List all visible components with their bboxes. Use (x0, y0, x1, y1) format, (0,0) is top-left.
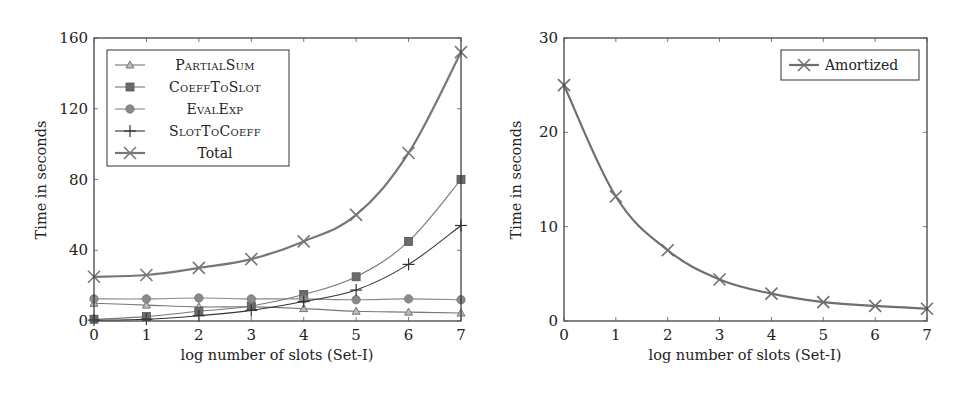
legend-label: CoeffToSlot (169, 79, 261, 95)
y-tick-label: 10 (539, 218, 558, 236)
legend-right: Amortized (781, 50, 919, 80)
x-tick-label: 6 (870, 326, 880, 344)
circle-marker-icon (247, 295, 255, 303)
y-tick-label: 0 (548, 312, 558, 330)
x-tick-label: 2 (663, 326, 673, 344)
circle-marker-icon (404, 295, 412, 303)
plot-area-right (558, 79, 933, 315)
series-amortized (558, 79, 933, 315)
x-marker-icon (662, 244, 674, 256)
x-tick-label: 2 (194, 326, 204, 344)
series-evalexp (90, 294, 465, 304)
chart-left-component-times: 0123456704080120160 log number of slots … (33, 29, 467, 363)
circle-marker-icon (195, 294, 203, 302)
x-marker-icon (403, 147, 415, 159)
legend-label: Total (197, 145, 233, 161)
square-marker-icon (352, 273, 360, 281)
x-tick-label: 7 (456, 326, 466, 344)
y-tick-label: 40 (69, 241, 88, 259)
x-axis-label-left: log number of slots (Set-I) (181, 347, 374, 363)
x-marker-icon (610, 190, 622, 202)
x-tick-label: 3 (715, 326, 725, 344)
circle-marker-icon (352, 296, 360, 304)
x-tick-label: 5 (351, 326, 361, 344)
circle-marker-icon (126, 105, 134, 113)
y-tick-label: 160 (59, 29, 88, 47)
square-marker-icon (126, 83, 134, 91)
x-tick-label: 0 (559, 326, 569, 344)
square-marker-icon (405, 237, 413, 245)
x-tick-label: 6 (404, 326, 414, 344)
legend-label: EvalExp (187, 101, 244, 117)
chart-right-amortized: 012345670102030 log number of slots (Set… (508, 29, 933, 363)
y-tick-label: 0 (78, 312, 88, 330)
y-tick-label: 80 (69, 171, 88, 189)
legend-left: PartialSumCoeffToSlotEvalExpSlotToCoeffT… (107, 50, 289, 166)
x-tick-label: 4 (299, 326, 309, 344)
legend-label: SlotToCoeff (169, 123, 261, 139)
plus-marker-icon (350, 284, 362, 296)
x-marker-icon (298, 235, 310, 247)
y-tick-label: 20 (539, 123, 558, 141)
y-tick-label: 30 (539, 29, 558, 47)
plus-marker-icon (403, 258, 415, 270)
x-tick-label: 5 (819, 326, 829, 344)
x-tick-label: 1 (142, 326, 152, 344)
legend-label: Amortized (824, 57, 898, 73)
x-marker-icon (714, 273, 726, 285)
y-tick-label: 120 (59, 100, 88, 118)
x-axis-label-right: log number of slots (Set-I) (649, 347, 842, 363)
x-tick-label: 7 (922, 326, 932, 344)
y-axis-label-right: Time in seconds (508, 121, 524, 240)
x-tick-label: 3 (247, 326, 257, 344)
x-tick-label: 0 (89, 326, 99, 344)
figure: 0123456704080120160 log number of slots … (0, 0, 965, 396)
legend-label: PartialSum (175, 57, 255, 73)
x-tick-label: 1 (611, 326, 621, 344)
y-axis-label-left: Time in seconds (33, 121, 49, 240)
circle-marker-icon (142, 295, 150, 303)
x-tick-label: 4 (767, 326, 777, 344)
x-marker-icon (350, 209, 362, 221)
